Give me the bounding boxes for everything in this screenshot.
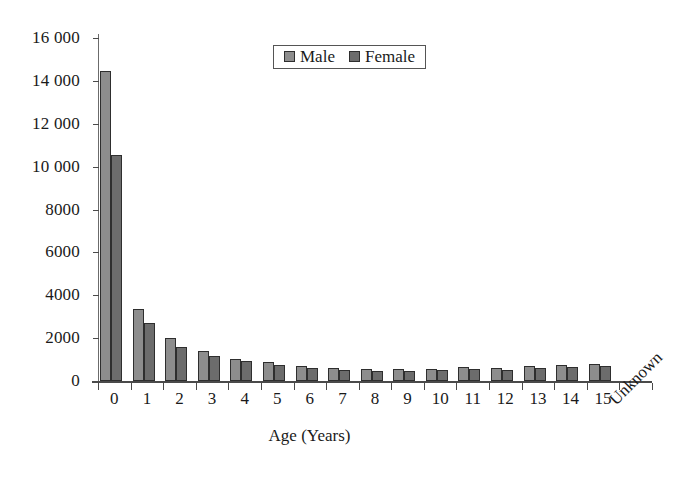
bar-female-0 [111,155,122,381]
bar-female-15 [600,366,611,381]
x-tick-mark [456,383,457,390]
y-tick-label: 2000 [45,329,80,346]
bar-male-11 [458,367,469,381]
y-tick-label: 4000 [45,286,80,303]
bar-male-14 [556,365,567,381]
x-tick-mark [163,383,164,390]
x-tick-label: 0 [99,390,129,408]
y-tick-label: 8000 [45,201,80,218]
x-tick-mark [424,383,425,390]
x-tick-label: 11 [458,390,488,408]
x-tick-label: 10 [425,390,455,408]
x-tick-mark [522,383,523,390]
legend-label-male: Male [300,48,335,65]
legend-item-male: Male [284,48,335,65]
x-axis-title: Age (Years) [0,426,699,446]
bar-female-9 [404,371,415,381]
bar-male-0 [100,71,111,381]
y-tick-mark [93,338,99,339]
legend-item-female: Female [349,48,415,65]
bar-female-2 [176,347,187,381]
x-tick-mark [294,383,295,390]
y-tick-label: 0 [71,372,80,389]
x-axis-line [92,381,652,383]
bar-female-3 [209,356,220,381]
bars-layer [98,38,652,381]
x-tick-mark [587,383,588,390]
y-tick-label: 12 000 [32,115,80,132]
bar-female-7 [339,370,350,381]
bar-male-2 [165,338,176,381]
x-tick-mark [652,383,653,390]
bar-male-7 [328,368,339,381]
x-tick-mark [359,383,360,390]
chart-legend: Male Female [273,45,426,69]
bar-female-14 [567,367,578,381]
y-tick-label: 14 000 [32,72,80,89]
x-tick-label: 2 [164,390,194,408]
x-tick-label: 4 [230,390,260,408]
y-tick-label: 6000 [45,243,80,260]
x-tick-label: 13 [523,390,553,408]
bar-female-8 [372,371,383,381]
bar-female-12 [502,370,513,381]
y-tick-mark [93,295,99,296]
x-tick-label: 12 [490,390,520,408]
bar-female-6 [307,368,318,381]
bar-female-11 [469,369,480,381]
x-tick-label: 6 [295,390,325,408]
bar-male-12 [491,368,502,381]
bar-female-4 [241,361,252,381]
x-tick-label: 1 [132,390,162,408]
bar-male-10 [426,369,437,381]
bar-female-5 [274,365,285,381]
x-tick-label: 14 [556,390,586,408]
y-tick-mark [93,381,99,382]
x-tick-mark [228,383,229,390]
x-tick-mark [98,383,99,390]
male-swatch-icon [284,51,295,62]
bar-male-13 [524,366,535,381]
x-axis-title-text: Age (Years) [269,426,351,445]
female-swatch-icon [349,51,360,62]
bar-chart: 0200040006000800010 00012 00014 00016 00… [0,0,699,478]
bar-male-9 [393,369,404,381]
y-tick-mark [93,210,99,211]
x-tick-label: 5 [262,390,292,408]
bar-female-10 [437,370,448,381]
x-tick-mark [554,383,555,390]
y-tick-label: 16 000 [32,29,80,46]
y-tick-label: 10 000 [32,158,80,175]
x-tick-label: 8 [360,390,390,408]
x-tick-label: 7 [327,390,357,408]
bar-female-13 [535,368,546,381]
bar-female-1 [144,323,155,381]
x-tick-mark [391,383,392,390]
y-tick-mark [93,252,99,253]
x-tick-mark [261,383,262,390]
x-tick-mark [196,383,197,390]
bar-male-3 [198,351,209,381]
x-tick-mark [326,383,327,390]
bar-male-5 [263,362,274,381]
y-tick-mark [93,81,99,82]
x-tick-mark [489,383,490,390]
bar-male-6 [296,366,307,381]
x-tick-label: 9 [393,390,423,408]
x-tick-label: 3 [197,390,227,408]
bar-male-1 [133,309,144,381]
legend-label-female: Female [365,48,415,65]
y-tick-mark [93,124,99,125]
x-tick-mark [131,383,132,390]
bar-male-4 [230,359,241,382]
y-tick-mark [93,38,99,39]
bar-male-8 [361,369,372,381]
y-axis-labels: 0200040006000800010 00012 00014 00016 00… [0,0,92,478]
y-tick-mark [93,167,99,168]
bar-male-15 [589,364,600,381]
